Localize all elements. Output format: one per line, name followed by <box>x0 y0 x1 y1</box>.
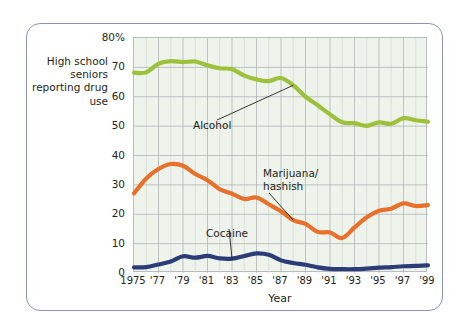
y-tick-label: 50 <box>112 119 125 131</box>
leader-line <box>217 85 293 120</box>
series-label-cocaine: Cocaine <box>206 227 248 240</box>
x-tick-label: '79 <box>174 275 189 286</box>
x-axis-title: Year <box>133 292 427 305</box>
x-tick-label: '89 <box>297 275 312 286</box>
y-tick-label: 40 <box>112 149 125 161</box>
gridlines <box>134 38 428 273</box>
x-tick-label: '85 <box>248 275 263 286</box>
y-tick-label: 10 <box>112 237 125 249</box>
x-tick-label: '81 <box>199 275 214 286</box>
plot-canvas <box>134 38 428 273</box>
y-tick-label: 60 <box>112 90 125 102</box>
x-tick-label: '83 <box>223 275 238 286</box>
y-tick-label: 70 <box>112 60 125 72</box>
x-tick-label: '87 <box>272 275 287 286</box>
y-tick-label: 80% <box>102 31 125 43</box>
x-tick-label: '99 <box>419 275 434 286</box>
x-tick-label: 1975 <box>120 275 145 286</box>
x-axis-tick-labels: 1975'77'79'81'83'85'87'89'91'93'95'97'99 <box>133 275 427 291</box>
series-label-alcohol: Alcohol <box>193 119 231 132</box>
x-tick-label: '97 <box>395 275 410 286</box>
plot-area <box>133 37 427 272</box>
x-tick-label: '77 <box>150 275 165 286</box>
y-tick-label: 30 <box>112 178 125 190</box>
y-axis-tick-labels: 01020304050607080% <box>96 37 129 272</box>
series-label-marijuana: Marijuana/ hashish <box>263 167 318 192</box>
chart-figure: High school seniors reporting drug use 0… <box>0 0 470 331</box>
y-tick-label: 20 <box>112 207 125 219</box>
x-tick-label: '95 <box>370 275 385 286</box>
x-tick-label: '91 <box>321 275 336 286</box>
x-tick-label: '93 <box>346 275 361 286</box>
